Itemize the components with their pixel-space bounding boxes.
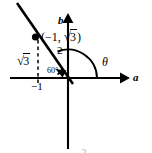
diagram-vector-layer <box>0 0 152 153</box>
point-coordinate-y-radical: √3 <box>64 30 77 43</box>
theta-label: θ <box>102 56 108 68</box>
reference-angle-label: 60° <box>47 67 58 75</box>
point-coordinate-x: (−1, <box>41 30 61 44</box>
point-coordinate-y-value: 3 <box>70 29 77 44</box>
point-coordinate-close: ) <box>77 30 81 44</box>
x-tick-label: −1 <box>31 81 43 92</box>
bottom-cutoff-text: 2 <box>81 147 87 153</box>
segment-length-label: 2 <box>57 45 63 56</box>
vertical-leg-label: √3 <box>17 54 30 67</box>
b-axis-label: b <box>58 15 64 26</box>
plotted-point-marker <box>32 33 39 40</box>
coordinate-diagram: b a (−1, √3 ) √3 2 −1 60° θ 2 <box>0 0 152 153</box>
vertical-leg-value: 3 <box>23 53 30 68</box>
a-axis-label: a <box>133 72 139 83</box>
point-coordinate-label: (−1, √3 ) <box>41 30 81 43</box>
vertical-leg-radical: √3 <box>17 54 30 67</box>
